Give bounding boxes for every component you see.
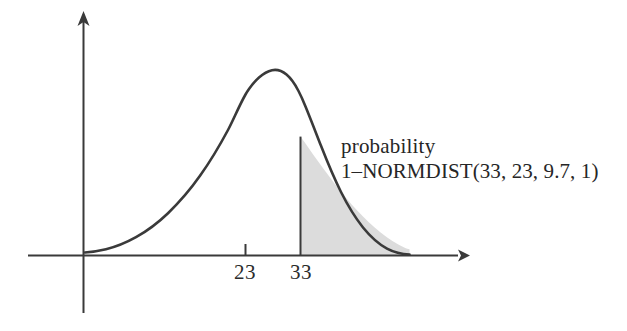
- arrow-right-icon: [458, 250, 470, 262]
- annotation-line-probability: probability: [341, 134, 599, 159]
- annotation-line-formula: 1–NORMDIST(33, 23, 9.7, 1): [341, 159, 599, 184]
- tick-label-23: 23: [226, 260, 264, 285]
- normal-distribution-figure: 23 33 probability 1–NORMDIST(33, 23, 9.7…: [0, 0, 627, 331]
- tick-label-33: 33: [282, 260, 320, 285]
- probability-annotation: probability 1–NORMDIST(33, 23, 9.7, 1): [341, 134, 599, 184]
- vertical-axis: [78, 11, 90, 313]
